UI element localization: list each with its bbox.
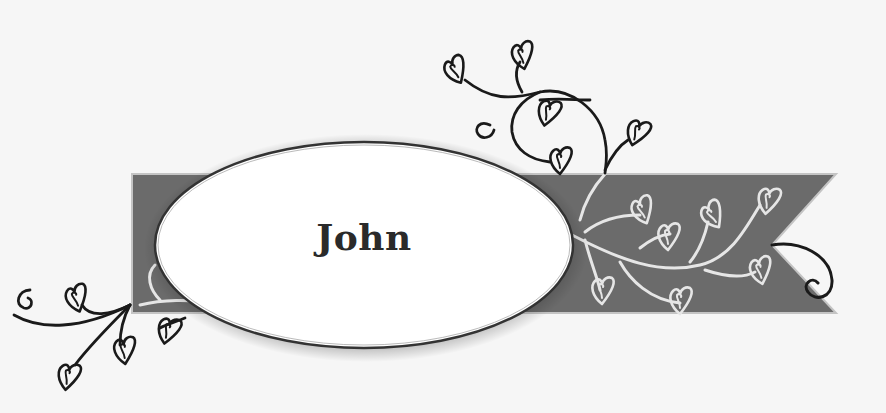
name-label: John <box>254 216 474 258</box>
name-tag-graphic: John <box>0 0 886 413</box>
decor-svg <box>0 0 886 413</box>
